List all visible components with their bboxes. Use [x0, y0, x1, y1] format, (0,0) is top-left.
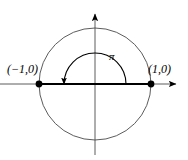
figure-canvas: [0, 0, 188, 160]
point-label-positive-one: (1,0): [148, 63, 171, 75]
point-label-negative-one: (−1,0): [7, 63, 38, 75]
angle-label-pi: π: [109, 51, 115, 62]
unit-circle-figure: (−1,0) (1,0) π: [0, 0, 188, 160]
point-marker-positive-one: [148, 81, 155, 88]
point-marker-negative-one: [36, 81, 43, 88]
